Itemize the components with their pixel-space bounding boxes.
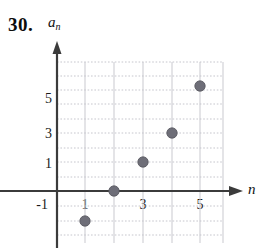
figure-container: 30. an n 5 3 1 -1 1 3 5 [0, 0, 275, 248]
data-point [138, 157, 148, 167]
x-axis [0, 186, 243, 196]
data-point [80, 216, 90, 226]
plot-svg [0, 0, 275, 248]
data-point [195, 81, 205, 91]
data-point [109, 186, 119, 196]
y-axis [53, 41, 62, 248]
data-point [167, 128, 177, 138]
